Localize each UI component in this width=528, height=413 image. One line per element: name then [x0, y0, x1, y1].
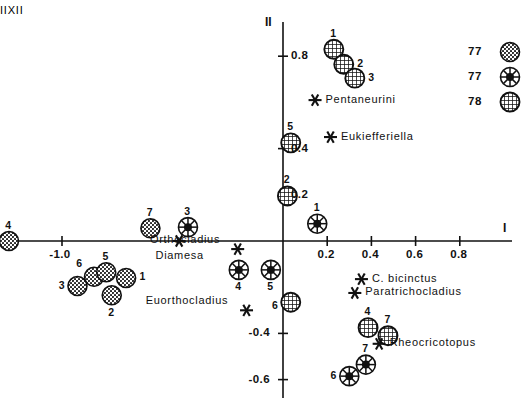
stippled-circle-marker — [97, 263, 116, 282]
hatched-circle-marker — [359, 318, 378, 337]
asterisk-marker — [348, 287, 361, 298]
asterisk-marker — [231, 243, 244, 254]
y-tick-label: 0.8 — [291, 50, 308, 62]
sample-point-label: 5 — [287, 121, 293, 132]
sample-point-label: 2 — [357, 58, 363, 69]
sample-point-label: 6 — [76, 258, 82, 269]
hatched-circle-marker — [345, 69, 364, 88]
legend-year-label: 77 — [468, 71, 482, 83]
hatched-circle-marker — [501, 93, 520, 112]
asterisk-marker — [355, 273, 368, 284]
x-tick-label: 0.4 — [362, 249, 379, 261]
sample-point-label: 5 — [103, 251, 109, 262]
legend-markers — [501, 43, 520, 112]
x-tick-label: 0.6 — [406, 249, 423, 261]
sample-point-label: 7 — [384, 314, 390, 325]
asterisk-marker — [324, 131, 337, 142]
dot-circle-marker — [501, 68, 520, 87]
sample-point-label: 3 — [59, 280, 65, 291]
asterisk-marker — [240, 305, 253, 316]
taxon-label: Pentaneurini — [326, 94, 396, 105]
sample-point-label: 1 — [330, 28, 336, 39]
sample-point-label: 1 — [140, 271, 146, 282]
taxon-label: Euorthocladius — [146, 295, 229, 306]
y-tick-label: 0.4 — [291, 143, 308, 155]
stippled-circle-marker — [501, 43, 520, 62]
dot-circle-marker — [261, 260, 280, 279]
stippled-circle-marker — [117, 268, 136, 287]
y-tick-label: -0.4 — [249, 327, 270, 339]
ordination-scatter-figure: -1.00.20.40.60.80.80.40.2-0.4-0.64736512… — [0, 0, 528, 413]
x-tick-label: 0.8 — [450, 249, 467, 261]
taxon-label: Paratrichocladius — [365, 286, 461, 297]
asterisk-marker — [309, 94, 322, 105]
x-tick-label: -1.0 — [49, 249, 70, 261]
sample-point-label: 3 — [368, 72, 374, 83]
taxon-label: Eukiefferiella — [341, 131, 414, 142]
sample-point-label: 7 — [362, 343, 368, 354]
sample-point-label: 4 — [235, 281, 241, 292]
taxon-label: C. bicinctus — [372, 273, 437, 284]
taxon-label: Orthocladius — [150, 234, 220, 245]
sample-point-label: 2 — [284, 174, 290, 185]
taxon-label: Rheocricotopus — [390, 337, 476, 348]
sample-point-label: 5 — [267, 281, 273, 292]
sample-point-label: 1 — [314, 202, 320, 213]
y-tick-label: -0.6 — [249, 374, 270, 386]
sample-point-label: 6 — [272, 300, 278, 311]
stippled-circle-marker — [0, 232, 18, 251]
data-points-layer — [0, 40, 397, 386]
legend-year-label: 78 — [468, 96, 482, 108]
dot-circle-marker — [229, 260, 248, 279]
legend-year-label: 77 — [468, 46, 482, 58]
sample-point-label: 2 — [108, 307, 114, 318]
taxon-label: Diamesa — [156, 250, 204, 261]
stippled-circle-marker — [102, 286, 121, 305]
hatched-circle-marker — [281, 293, 300, 312]
plot-canvas — [0, 0, 528, 413]
dot-circle-marker — [356, 355, 375, 374]
x-axis-title: I — [503, 222, 506, 234]
dot-circle-marker — [340, 367, 359, 386]
sample-point-label: 6 — [331, 370, 337, 381]
sample-point-label: 4 — [364, 306, 370, 317]
y-tick-label: 0.2 — [291, 189, 308, 201]
sample-point-label: 3 — [184, 206, 190, 217]
sample-point-label: 4 — [5, 220, 11, 231]
x-tick-label: 0.2 — [318, 249, 335, 261]
dot-circle-marker — [308, 214, 327, 233]
y-axis-title: II — [265, 16, 272, 28]
sample-point-label: 7 — [147, 207, 153, 218]
